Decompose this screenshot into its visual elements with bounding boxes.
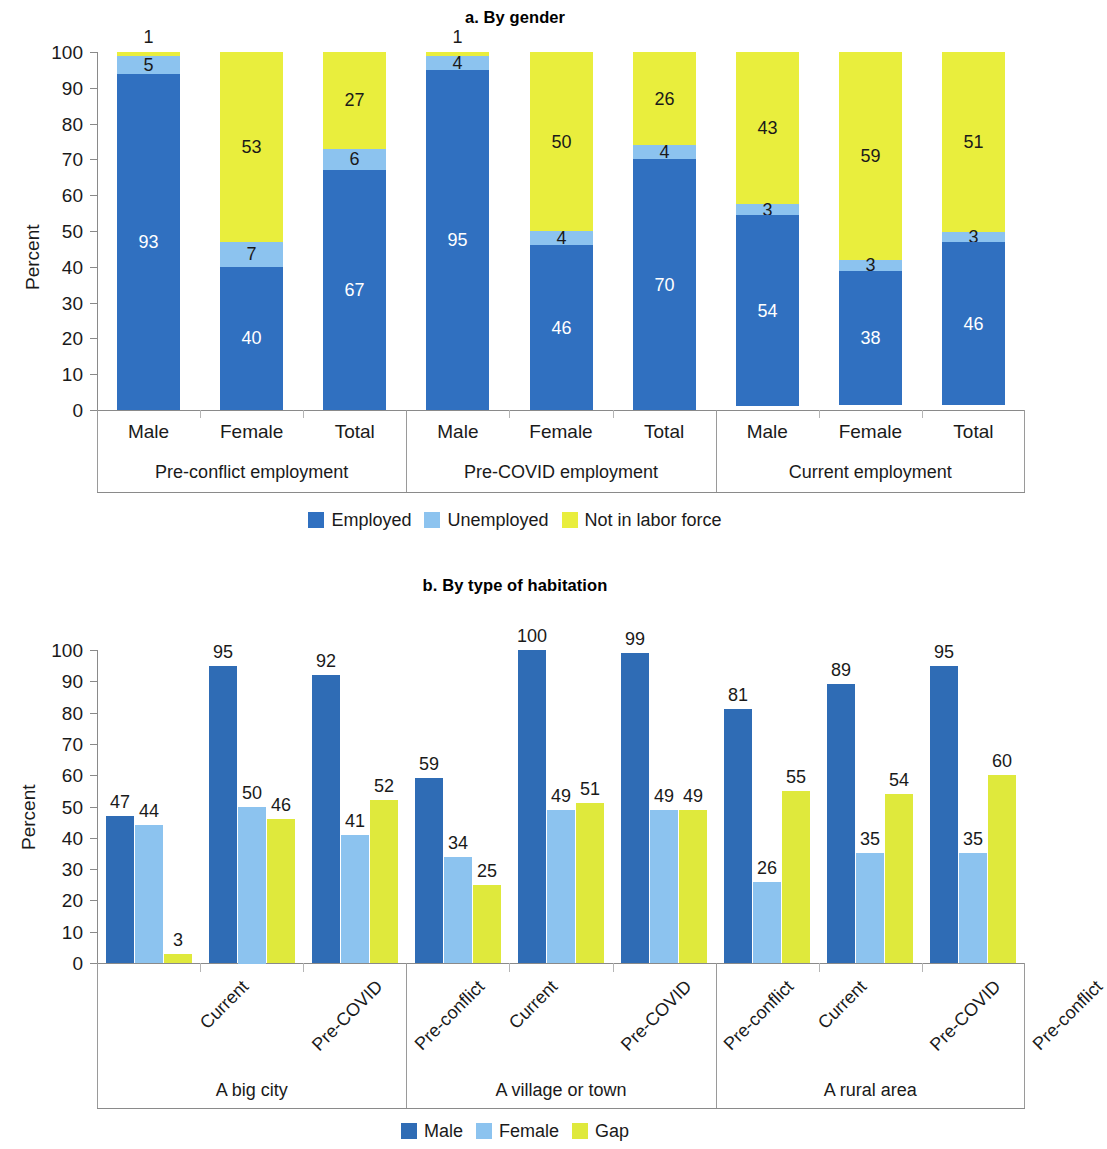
panel-a-category-tick-5	[613, 410, 614, 418]
panel-a-ytick-40	[90, 267, 97, 268]
panel-a-legend-label-1: Unemployed	[447, 511, 548, 529]
panel-b-group-label-2: A rural area	[720, 1081, 1020, 1099]
panel-b-category-label-3: Current	[505, 977, 560, 1032]
panel-b-bar-2-3	[473, 885, 501, 963]
panel-b-category-label-4: Pre-COVID	[618, 977, 695, 1054]
panel-a-bar-0: 1593	[117, 52, 180, 410]
panel-a-bar-1: 53740	[220, 52, 283, 410]
panel-a-value-2-4: 50	[530, 133, 593, 151]
panel-a-value-1-2: 6	[323, 150, 386, 168]
panel-b-value-2-3: 25	[459, 862, 515, 880]
panel-b-category-label-7: Pre-COVID	[927, 977, 1004, 1054]
panel-a-value-2-5: 26	[633, 90, 696, 108]
panel-b-ytick-0	[90, 963, 97, 964]
panel-b-bar-0-7	[827, 684, 855, 963]
panel-b-bar-2-1	[267, 819, 295, 963]
panel-a-value-2-1: 53	[220, 138, 283, 156]
panel-a-legend-swatch-0	[308, 512, 324, 528]
panel-a-legend-item-1: Unemployed	[424, 511, 548, 529]
panel-b-group-separator-3	[1024, 963, 1025, 1108]
panel-a-ytick-label-60: 60	[37, 186, 83, 205]
panel-b-ytick-60	[90, 775, 97, 776]
panel-b-value-2-5: 49	[665, 787, 721, 805]
panel-b-ytick-label-20: 20	[37, 891, 83, 910]
panel-a-ytick-70	[90, 159, 97, 160]
panel-a-category-tick-2	[303, 410, 304, 418]
panel-b-legend-item-0: Male	[401, 1122, 463, 1140]
panel-a-group-separator-1	[406, 410, 407, 492]
panel-b-bar-2-4	[576, 803, 604, 963]
panel-a-ytick-label-80: 80	[37, 115, 83, 134]
panel-a-value-0-2: 67	[323, 281, 386, 299]
panel-a-y-axis	[97, 52, 98, 411]
panel-b-ytick-label-70: 70	[37, 735, 83, 754]
panel-b-category-tick-4	[509, 963, 510, 972]
panel-b-bar-1-7	[856, 853, 884, 963]
panel-b-bar-2-7	[885, 794, 913, 963]
panel-a-group-separator-0	[97, 410, 98, 492]
panel-b-value-2-8: 60	[974, 752, 1030, 770]
panel-b-legend-item-1: Female	[476, 1122, 559, 1140]
panel-b-group-label-1: A village or town	[411, 1081, 711, 1099]
panel-a-group-separator-2	[716, 410, 717, 492]
panel-a-ytick-80	[90, 124, 97, 125]
panel-a-legend-label-2: Not in labor force	[585, 511, 722, 529]
panel-a-category-label-8: Total	[903, 422, 1043, 441]
panel-b-bar-0-3	[415, 778, 443, 963]
panel-b-ytick-90	[90, 681, 97, 682]
panel-b-bar-0-6	[724, 709, 752, 963]
panel-a-value-2-3: 1	[426, 28, 489, 46]
panel-b-legend-label-0: Male	[424, 1122, 463, 1140]
panel-b-value-0-5: 99	[607, 630, 663, 648]
panel-a-ytick-label-10: 10	[37, 365, 83, 384]
panel-b-plot: 0102030405060708090100474439550469241525…	[0, 565, 1030, 1149]
panel-b-ytick-label-40: 40	[37, 829, 83, 848]
panel-a-group-label-1: Pre-COVID employment	[411, 463, 711, 481]
panel-b-label-box-bottom	[97, 1108, 1025, 1109]
panel-a-ytick-label-0: 0	[37, 401, 83, 420]
panel-b-bar-0-8	[930, 666, 958, 963]
panel-a-value-0-0: 93	[117, 233, 180, 251]
panel-a-legend-item-0: Employed	[308, 511, 411, 529]
panel-b-bar-2-0	[164, 954, 192, 963]
panel-b-bar-0-0	[106, 816, 134, 963]
panel-a-legend-label-0: Employed	[331, 511, 411, 529]
panel-b-value-0-8: 95	[916, 643, 972, 661]
panel-a-ytick-label-90: 90	[37, 79, 83, 98]
panel-b-ytick-label-90: 90	[37, 672, 83, 691]
panel-b-ytick-label-30: 30	[37, 860, 83, 879]
panel-b-category-label-5: Pre-conflict	[720, 977, 796, 1053]
panel-a-group-separator-3	[1024, 410, 1025, 492]
panel-b-ytick-70	[90, 744, 97, 745]
panel-b-legend-item-2: Gap	[572, 1122, 629, 1140]
panel-a-ytick-50	[90, 231, 97, 232]
panel-b-value-2-4: 51	[562, 780, 618, 798]
panel-a-category-tick-4	[509, 410, 510, 418]
panel-a-bar-4: 50446	[530, 52, 593, 410]
panel-a-ytick-label-30: 30	[37, 294, 83, 313]
panel-b-bar-1-1	[238, 807, 266, 964]
panel-b-value-0-6: 81	[710, 686, 766, 704]
panel-a-value-1-5: 4	[633, 143, 696, 161]
panel-a-legend-item-2: Not in labor force	[562, 511, 722, 529]
panel-a-ytick-label-100: 100	[37, 43, 83, 62]
panel-b-legend-swatch-0	[401, 1123, 417, 1139]
panel-b-legend-swatch-1	[476, 1123, 492, 1139]
panel-a-value-0-4: 46	[530, 319, 593, 337]
panel-a-legend: EmployedUnemployedNot in labor force	[0, 511, 1030, 529]
panel-b-ytick-80	[90, 713, 97, 714]
panel-b-group-separator-0	[97, 963, 98, 1108]
panel-b-legend-label-1: Female	[499, 1122, 559, 1140]
panel-b-group-separator-2	[716, 963, 717, 1108]
panel-b-category-tick-1	[200, 963, 201, 972]
panel-b-ytick-label-60: 60	[37, 766, 83, 785]
panel-a-category-tick-8	[922, 410, 923, 418]
panel-a-bar-5: 26470	[633, 52, 696, 410]
panel-b-bar-1-6	[753, 882, 781, 963]
panel-a-ytick-label-20: 20	[37, 329, 83, 348]
panel-a-ytick-label-70: 70	[37, 150, 83, 169]
panel-a-legend-swatch-2	[562, 512, 578, 528]
panel-a-group-label-0: Pre-conflict employment	[102, 463, 402, 481]
panel-b-bar-2-8	[988, 775, 1016, 963]
panel-b-value-0-7: 89	[813, 661, 869, 679]
